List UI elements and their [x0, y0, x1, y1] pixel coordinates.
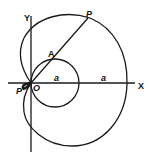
radius-small-label: a	[54, 74, 59, 83]
diagram-canvas	[0, 0, 149, 159]
origin-label: O	[33, 84, 40, 93]
x-axis-label: X	[138, 82, 144, 91]
radius-line-op	[31, 18, 88, 83]
point-p-prime-label: P'	[16, 87, 24, 96]
point-p-label: P	[86, 10, 92, 19]
point-a-label: A	[48, 50, 55, 59]
y-axis-label: Y	[24, 14, 30, 23]
radius-large-label: a	[101, 74, 106, 83]
